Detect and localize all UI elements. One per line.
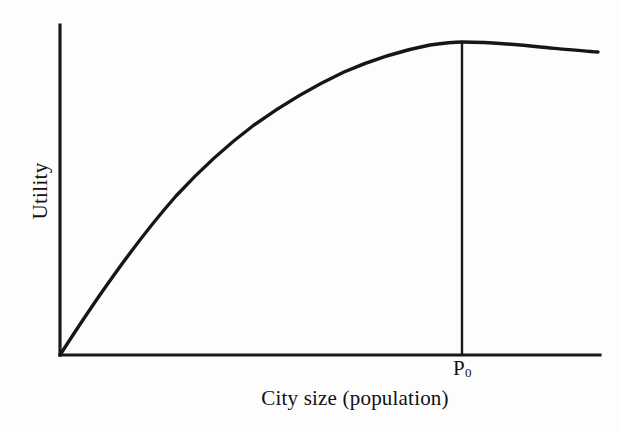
utility-curve [60,42,598,355]
chart-canvas [0,0,620,431]
peak-point-label: P0 [432,356,492,381]
x-axis-label-text: City size (population) [261,386,449,410]
peak-point-label-base: P [453,356,465,380]
utility-vs-city-size-chart: Utility City size (population) P0 [0,0,620,431]
peak-point-label-subscript: 0 [465,365,472,380]
y-axis-label-text: Utility [28,163,53,220]
x-axis-label: City size (population) [180,386,530,411]
y-axis-label: Utility [0,151,81,231]
